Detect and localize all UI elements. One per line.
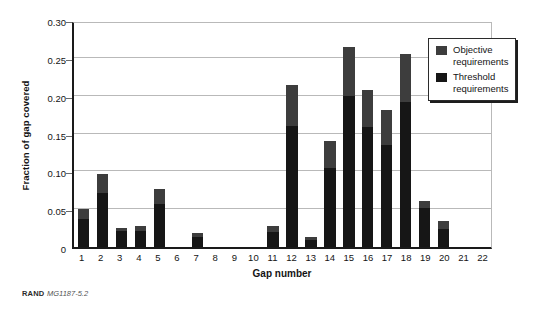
x-axis-tick-label: 10 — [244, 252, 263, 263]
y-axis-tick-label: 0.10 — [26, 168, 66, 179]
bar[interactable] — [381, 110, 392, 247]
x-axis-tick-label: 11 — [263, 252, 282, 263]
x-axis-tick-labels: 12345678910111213141516171819202122 — [72, 252, 492, 263]
bar[interactable] — [267, 226, 278, 247]
bar[interactable] — [324, 141, 335, 247]
x-axis-tick-label: 21 — [454, 252, 473, 263]
bar[interactable] — [438, 221, 449, 247]
bar-segment-objective[interactable] — [343, 47, 354, 96]
bar-segment-threshold[interactable] — [116, 231, 127, 247]
bar[interactable] — [135, 226, 146, 247]
legend-entry-objective: Objective requirements — [435, 44, 508, 67]
y-axis-tick-label: 0.30 — [26, 17, 66, 28]
bar-slot — [93, 23, 112, 247]
bar-segment-objective[interactable] — [381, 110, 392, 145]
bar[interactable] — [305, 237, 316, 247]
bar-slot — [112, 23, 131, 247]
bar-segment-threshold[interactable] — [400, 102, 411, 247]
x-axis-tick-label: 22 — [473, 252, 492, 263]
bar-slot — [245, 23, 264, 247]
bar[interactable] — [400, 54, 411, 247]
bar-slot — [282, 23, 301, 247]
bar-segment-objective[interactable] — [154, 189, 165, 204]
bar-slot — [188, 23, 207, 247]
bar-segment-objective[interactable] — [400, 54, 411, 102]
chart-legend: Objective requirements Threshold require… — [428, 38, 516, 101]
bar-segment-threshold[interactable] — [438, 229, 449, 247]
bar[interactable] — [192, 233, 203, 247]
bar-slot — [264, 23, 283, 247]
bar-segment-threshold[interactable] — [97, 193, 108, 247]
x-axis-tick-label: 20 — [435, 252, 454, 263]
bar[interactable] — [78, 209, 89, 247]
bar-segment-objective[interactable] — [419, 201, 430, 208]
bar-segment-threshold[interactable] — [381, 145, 392, 247]
bar-segment-threshold[interactable] — [305, 240, 316, 247]
bar-segment-threshold[interactable] — [419, 208, 430, 247]
bar-segment-threshold[interactable] — [154, 204, 165, 247]
y-axis-tick-label: 0.20 — [26, 92, 66, 103]
y-axis-tick-label: 0.15 — [26, 130, 66, 141]
x-axis-tick-label: 15 — [339, 252, 358, 263]
bar-segment-threshold[interactable] — [324, 168, 335, 247]
bar-segment-objective[interactable] — [362, 90, 373, 128]
bar-segment-threshold[interactable] — [286, 126, 297, 247]
bar[interactable] — [419, 201, 430, 247]
legend-label-objective-line1: Objective — [453, 44, 508, 56]
x-axis-tick-label: 6 — [167, 252, 186, 263]
x-axis-title: Gap number — [72, 268, 492, 279]
bar-slot — [396, 23, 415, 247]
source-document-id: MG1187-5.2 — [47, 289, 88, 298]
bar-slot — [131, 23, 150, 247]
bar[interactable] — [116, 228, 127, 247]
bar-segment-threshold[interactable] — [78, 219, 89, 247]
x-axis-tick-label: 19 — [416, 252, 435, 263]
x-axis-tick-label: 4 — [129, 252, 148, 263]
bar-segment-objective[interactable] — [97, 174, 108, 192]
x-axis-tick-label: 7 — [187, 252, 206, 263]
bar-slot — [320, 23, 339, 247]
bar-segment-threshold[interactable] — [267, 232, 278, 247]
bar-segment-threshold[interactable] — [362, 127, 373, 247]
legend-label-threshold: Threshold requirements — [453, 71, 508, 94]
bar-slot — [226, 23, 245, 247]
source-credit: RANDMG1187-5.2 — [22, 289, 88, 298]
legend-label-threshold-line1: Threshold — [453, 71, 508, 83]
bar-slot — [358, 23, 377, 247]
bar-segment-threshold[interactable] — [135, 231, 146, 247]
x-axis-tick-label: 14 — [320, 252, 339, 263]
bar-slot — [339, 23, 358, 247]
bar-segment-threshold[interactable] — [343, 96, 354, 247]
bar-slot — [150, 23, 169, 247]
bar-segment-objective[interactable] — [286, 85, 297, 126]
figure-container: Fraction of gap covered 00.050.100.150.2… — [0, 0, 560, 311]
bar-segment-objective[interactable] — [324, 141, 335, 168]
bar-segment-threshold[interactable] — [192, 237, 203, 247]
bar-segment-objective[interactable] — [438, 221, 449, 229]
x-axis-tick-label: 3 — [110, 252, 129, 263]
bar-segment-objective[interactable] — [78, 209, 89, 219]
threshold-swatch-icon — [435, 72, 448, 83]
y-axis-tick-label: 0.25 — [26, 54, 66, 65]
x-axis-tick-label: 18 — [397, 252, 416, 263]
x-axis-tick-label: 8 — [206, 252, 225, 263]
y-axis-tick-label: 0 — [26, 244, 66, 255]
x-axis-tick-label: 17 — [378, 252, 397, 263]
y-axis-tick-label: 0.05 — [26, 206, 66, 217]
objective-swatch-icon — [435, 45, 448, 56]
legend-label-threshold-line2: requirements — [453, 83, 508, 95]
x-axis-tick-label: 12 — [282, 252, 301, 263]
bar[interactable] — [286, 85, 297, 247]
bar[interactable] — [97, 174, 108, 247]
legend-entry-threshold: Threshold requirements — [435, 71, 508, 94]
bar-slot — [377, 23, 396, 247]
bar-slot — [74, 23, 93, 247]
x-axis-tick-label: 1 — [72, 252, 91, 263]
x-axis-tick-label: 2 — [91, 252, 110, 263]
source-organization: RAND — [22, 289, 44, 298]
bar[interactable] — [154, 189, 165, 247]
bar[interactable] — [343, 47, 354, 248]
bar[interactable] — [362, 90, 373, 247]
legend-label-objective: Objective requirements — [453, 44, 508, 67]
x-axis-tick-label: 9 — [225, 252, 244, 263]
